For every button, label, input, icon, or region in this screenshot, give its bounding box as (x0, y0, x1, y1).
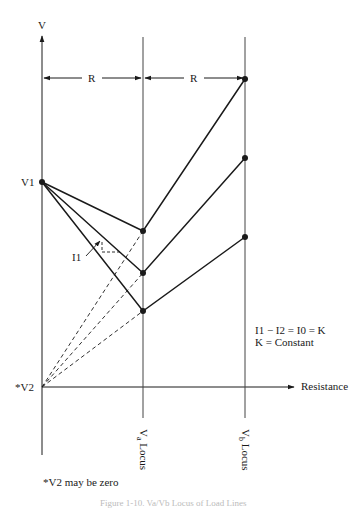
equation-line-1: I1 − I2 = I0 = K (255, 324, 326, 336)
v1-label: V1 (21, 177, 34, 188)
i1-label: I1 (72, 252, 81, 263)
r-label-right: R (190, 73, 197, 84)
v2-label: *V2 (15, 382, 34, 393)
equation-block: I1 − I2 = I0 = K K = Constant (255, 324, 326, 348)
resistance-label: Resistance (301, 381, 348, 392)
footnote: *V2 may be zero (43, 477, 118, 488)
r-label-left: R (88, 73, 95, 84)
vb-locus-label: Vb Locus (237, 429, 252, 471)
equation-line-2: K = Constant (255, 336, 326, 348)
va-locus-label: Va Locus (135, 429, 150, 470)
figure-caption: Figure 1-10. Va/Vb Locus of Load Lines (100, 499, 247, 508)
v-axis-label: V (38, 20, 46, 31)
dashed-projections (42, 231, 143, 387)
